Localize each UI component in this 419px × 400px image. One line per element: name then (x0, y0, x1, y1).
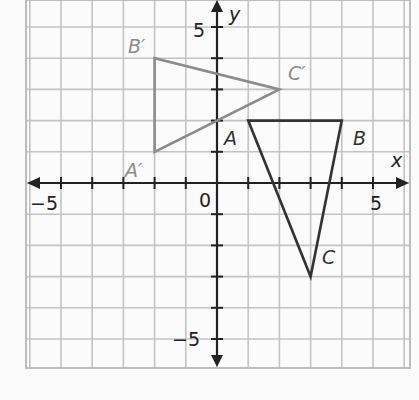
vertex-label-a: A (222, 127, 237, 149)
x-axis-label: x (390, 149, 403, 171)
y-axis-up-arrow-icon (211, 0, 223, 12)
x-tick-label-5: 5 (370, 192, 382, 214)
x-tick-label-neg5: −5 (30, 192, 58, 214)
vertex-label-b-prime: B′ (128, 35, 146, 57)
graph-svg: y x 5 −5 −5 5 0 A B C A′ B′ C′ (0, 0, 419, 400)
vertex-label-b: B (353, 127, 366, 149)
x-axis-right-arrow-icon (396, 177, 409, 189)
y-tick-label-5: 5 (193, 19, 205, 41)
origin-label: 0 (199, 189, 211, 211)
y-tick-label-neg5: −5 (172, 328, 200, 350)
y-axis-down-arrow-icon (211, 355, 223, 367)
vertex-label-c: C (322, 246, 336, 268)
vertex-label-c-prime: C′ (288, 62, 306, 84)
vertex-label-a-prime: A′ (123, 159, 143, 181)
y-axis-label: y (228, 3, 241, 25)
x-axis-left-arrow-icon (27, 177, 40, 189)
coordinate-plane: y x 5 −5 −5 5 0 A B C A′ B′ C′ (0, 0, 419, 400)
